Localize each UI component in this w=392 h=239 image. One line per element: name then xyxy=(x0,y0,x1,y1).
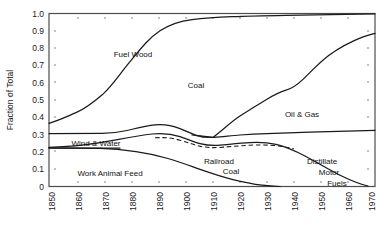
y-tick-label: 0.6 xyxy=(32,78,44,88)
region-label-distillate-2: Motor xyxy=(319,168,340,177)
y-tick-label: 0.9 xyxy=(32,26,44,36)
y-tick-label: 1.0 xyxy=(32,9,44,19)
region-label-railroad-coal-2: Coal xyxy=(223,167,240,176)
x-tick-label: 1900 xyxy=(182,192,192,211)
y-axis-label: Fraction of Total xyxy=(5,70,15,130)
x-tick-label: 1880 xyxy=(128,192,138,211)
x-tick-label: 1920 xyxy=(236,192,246,211)
x-tick-label: 1850 xyxy=(47,192,57,211)
y-tick-label: 0.3 xyxy=(32,130,44,140)
region-label-wind-water: Wind & Water xyxy=(71,139,120,148)
y-tick-label: 0.1 xyxy=(32,164,44,174)
x-tick-label: 1890 xyxy=(155,192,165,211)
x-tick-label: 1960 xyxy=(344,192,354,211)
chart-figure: Fraction of Total 1.0 0.9 0.8 0.7 0.6 0.… xyxy=(0,0,392,239)
x-tick-label: 1910 xyxy=(209,192,219,211)
region-label-distillate-3: Fuels xyxy=(327,179,347,188)
region-label-fuel-wood: Fuel Wood xyxy=(114,50,153,59)
y-tick-label: 0.7 xyxy=(32,60,44,70)
x-tick-label: 1930 xyxy=(263,192,273,211)
region-label-railroad-coal-1: Railroad xyxy=(204,157,234,166)
region-label-distillate-1: Distillate xyxy=(307,157,338,166)
x-tick-label: 1950 xyxy=(317,192,327,211)
x-tick-label: 1970 xyxy=(367,192,377,211)
y-tick-label: 0 xyxy=(39,182,44,192)
x-tick-label: 1940 xyxy=(290,192,300,211)
fraction-of-total-area-chart: Fraction of Total 1.0 0.9 0.8 0.7 0.6 0.… xyxy=(0,0,392,239)
y-tick-label: 0.5 xyxy=(32,95,44,105)
region-label-oil-gas: Oil & Gas xyxy=(285,110,319,119)
y-tick-label: 0.2 xyxy=(32,147,44,157)
x-tick-label: 1870 xyxy=(101,192,111,211)
x-tick-label: 1860 xyxy=(74,192,84,211)
y-tick-label: 0.8 xyxy=(32,43,44,53)
y-tick-label: 0.4 xyxy=(32,112,44,122)
region-label-coal: Coal xyxy=(188,81,205,90)
region-label-work-animal-feed: Work Animal Feed xyxy=(77,169,142,178)
